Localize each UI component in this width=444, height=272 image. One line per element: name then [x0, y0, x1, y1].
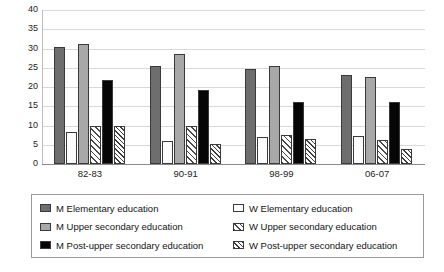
legend-column-female: W Elementary educationW Upper secondary …	[233, 199, 421, 255]
bar-group	[245, 10, 317, 164]
bar-m-elementary	[341, 75, 352, 164]
bar-m-elementary	[150, 66, 161, 164]
y-axis: 0510152025303540	[14, 0, 38, 186]
y-tick-label: 30	[28, 44, 38, 53]
bar-w-post-upper-secondary	[210, 144, 221, 164]
bar-m-elementary	[245, 69, 256, 164]
legend-item[interactable]: M Post-upper secondary education	[40, 236, 230, 255]
y-tick-label: 5	[33, 140, 38, 149]
bar-w-elementary	[66, 132, 77, 164]
bar-m-upper-secondary	[365, 77, 376, 164]
bar-w-post-upper-secondary	[305, 139, 316, 164]
legend-label: W Post-upper secondary education	[249, 240, 397, 251]
bar-w-elementary	[257, 137, 268, 164]
y-tick-label: 10	[28, 121, 38, 130]
legend-label: M Upper secondary education	[56, 221, 183, 232]
plot-area: 0510152025303540 82-8390-9198-9906-07	[0, 0, 444, 186]
legend-swatch-icon	[40, 241, 51, 249]
legend-item[interactable]: W Upper secondary education	[233, 218, 421, 237]
x-axis-line	[42, 164, 425, 165]
x-tick-label: 82-83	[42, 168, 138, 179]
x-axis: 82-8390-9198-9906-07	[42, 168, 425, 184]
legend-column-male: M Elementary educationM Upper secondary …	[40, 199, 230, 255]
y-tick-label: 25	[28, 63, 38, 72]
legend-swatch-icon	[233, 204, 244, 212]
legend-item[interactable]: M Upper secondary education	[40, 218, 230, 237]
bar-w-upper-secondary	[377, 140, 388, 164]
bar-group	[54, 10, 126, 164]
legend-swatch-icon	[40, 204, 51, 212]
x-tick-label: 90-91	[138, 168, 234, 179]
y-tick-label: 40	[28, 5, 38, 14]
bar-w-upper-secondary	[186, 126, 197, 164]
legend-label: W Upper secondary education	[249, 221, 377, 232]
bar-m-post-upper-secondary	[389, 102, 400, 164]
x-tick-label: 06-07	[329, 168, 425, 179]
y-tick-label: 20	[28, 82, 38, 91]
y-tick-label: 35	[28, 24, 38, 33]
bar-chart: 0510152025303540 82-8390-9198-9906-07 M …	[0, 0, 444, 272]
legend-swatch-icon	[40, 223, 51, 231]
bar-w-post-upper-secondary	[114, 126, 125, 165]
bar-m-elementary	[54, 47, 65, 164]
bar-w-elementary	[353, 136, 364, 164]
bar-m-post-upper-secondary	[198, 90, 209, 164]
bar-group	[341, 10, 413, 164]
bar-m-post-upper-secondary	[293, 102, 304, 164]
bar-w-upper-secondary	[281, 135, 292, 164]
legend-label: M Elementary education	[56, 203, 158, 214]
bar-group	[150, 10, 222, 164]
legend-label: W Elementary education	[249, 203, 353, 214]
bar-m-upper-secondary	[269, 66, 280, 164]
chart-legend: M Elementary educationM Upper secondary …	[31, 194, 424, 258]
legend-item[interactable]: W Post-upper secondary education	[233, 236, 421, 255]
y-tick-label: 0	[33, 159, 38, 168]
y-tick-label: 15	[28, 101, 38, 110]
bar-w-upper-secondary	[90, 126, 101, 165]
x-tick-label: 98-99	[234, 168, 330, 179]
legend-label: M Post-upper secondary education	[56, 240, 203, 251]
legend-swatch-icon	[233, 223, 244, 231]
legend-item[interactable]: M Elementary education	[40, 199, 230, 218]
bar-w-post-upper-secondary	[401, 149, 412, 164]
bar-m-upper-secondary	[174, 54, 185, 164]
legend-swatch-icon	[233, 241, 244, 249]
bar-w-elementary	[162, 141, 173, 164]
bar-m-upper-secondary	[78, 44, 89, 164]
bar-groups	[42, 10, 425, 164]
bar-m-post-upper-secondary	[102, 80, 113, 164]
legend-item[interactable]: W Elementary education	[233, 199, 421, 218]
